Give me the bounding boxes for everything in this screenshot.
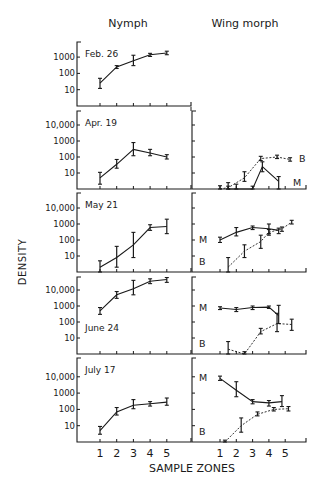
y-tick-label: 10 <box>64 85 75 95</box>
y-tick-label: 10 <box>64 421 75 431</box>
y-tick-label: 10,000 <box>45 372 75 382</box>
y-tick-label: 100 <box>59 317 75 327</box>
y-tick-label: 10 <box>64 333 75 343</box>
density-chart-figure: Nymph Wing morph DENSITY SAMPLE ZONES 10… <box>0 0 323 489</box>
wing-axes <box>192 193 306 272</box>
series-label-m: M <box>199 372 207 383</box>
y-tick-label: 1000 <box>53 301 75 311</box>
y-tick-label: 100 <box>59 404 75 414</box>
panel-date-label: Feb. 26 <box>85 49 118 59</box>
column-title-wing-morph: Wing morph <box>211 17 278 30</box>
x-tick-label: 5 <box>163 447 170 460</box>
panels-group: 101001000Feb. 2610100100010,000Apr. 19MB… <box>45 42 306 460</box>
series-label-m: M <box>199 302 207 313</box>
x-axis-title: SAMPLE ZONES <box>149 462 235 475</box>
panel-1: 101001000Feb. 26 <box>53 42 191 111</box>
x-tick-label: 4 <box>265 447 272 460</box>
x-tick-label: 1 <box>97 447 104 460</box>
y-tick-label: 10,000 <box>45 120 75 130</box>
x-tick-label: 1 <box>217 447 224 460</box>
x-tick-label: 4 <box>147 447 154 460</box>
x-tick-label: 3 <box>130 447 137 460</box>
wing-axes <box>192 277 306 354</box>
panel-date-label: June 24 <box>84 323 119 333</box>
panel-date-label: Apr. 19 <box>85 118 117 128</box>
y-tick-label: 10 <box>64 168 75 178</box>
y-tick-label: 1000 <box>53 136 75 146</box>
x-tick-label: 2 <box>233 447 240 460</box>
y-tick-label: 1000 <box>53 52 75 62</box>
y-axis-title: DENSITY <box>17 238 28 285</box>
panel-4: 10100100010,000June 24MB <box>45 277 306 354</box>
series-label-m: M <box>199 234 207 245</box>
panel-date-label: May 21 <box>85 200 118 210</box>
x-tick-label: 5 <box>282 447 289 460</box>
series-label-b: B <box>199 338 206 349</box>
panel-2: 10100100010,000Apr. 19MB <box>45 111 306 189</box>
panel-5: 10100100010,000July 17MB <box>45 358 306 442</box>
y-tick-label: 1000 <box>53 388 75 398</box>
y-tick-label: 10,000 <box>45 285 75 295</box>
wing-axes <box>192 358 306 442</box>
y-tick-label: 10 <box>64 251 75 261</box>
y-tick-label: 100 <box>59 68 75 78</box>
panel-date-label: July 17 <box>84 365 116 375</box>
series-label-b: B <box>199 256 206 267</box>
x-tick-label: 2 <box>113 447 120 460</box>
y-tick-label: 100 <box>59 152 75 162</box>
series-label-m: M <box>293 177 301 188</box>
series-label-b: B <box>299 153 306 164</box>
series-label-b: B <box>199 426 206 437</box>
y-tick-label: 10,000 <box>45 203 75 213</box>
wing-b-line <box>225 409 289 442</box>
x-tick-label: 3 <box>249 447 256 460</box>
panel-3: 10100100010,000May 21MB <box>45 193 306 272</box>
y-tick-label: 1000 <box>53 219 75 229</box>
column-title-nymph: Nymph <box>108 17 147 30</box>
y-tick-label: 100 <box>59 235 75 245</box>
wing-axes <box>192 111 306 189</box>
